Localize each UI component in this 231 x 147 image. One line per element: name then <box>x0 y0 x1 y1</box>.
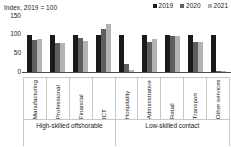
bar-2021[interactable] <box>37 39 42 72</box>
group-cell: Low-skilled contact <box>116 120 230 146</box>
legend-item-2021[interactable]: 2021 <box>208 3 228 10</box>
group-cell: High-skilled offshorable <box>23 120 116 146</box>
category-axis-labels: ManufacturingProfessionalFinancialICTHos… <box>23 77 230 120</box>
bar-2019[interactable] <box>188 35 193 72</box>
bar-2021[interactable] <box>198 42 203 72</box>
bar-group <box>92 16 115 72</box>
category-cell: Manufacturing <box>23 78 47 120</box>
category-cell: ICT <box>93 78 116 120</box>
bar-2020[interactable] <box>78 38 83 72</box>
group-label: Low-skilled contact <box>145 122 199 129</box>
bar-2020[interactable] <box>124 64 129 72</box>
legend-item-2020[interactable]: 2020 <box>180 3 200 10</box>
y-axis-tick-0: 0 <box>17 69 21 76</box>
bar-2021[interactable] <box>60 43 65 72</box>
bar-group <box>46 16 69 72</box>
bar-group <box>207 16 230 72</box>
category-label: Professional <box>55 85 61 119</box>
group-axis-labels: High-skilled offshorableLow-skilled cont… <box>23 119 230 146</box>
bar-2020[interactable] <box>147 42 152 72</box>
y-axis-tick-100: 100 <box>10 31 21 38</box>
y-axis-tick-150: 150 <box>10 13 21 20</box>
bar-2021[interactable] <box>152 39 157 72</box>
category-cell: Transport <box>184 78 207 120</box>
axis-baseline <box>22 72 231 73</box>
category-label: ICT <box>101 109 107 119</box>
category-cell: Hospitality <box>116 78 139 120</box>
bar-2019[interactable] <box>50 35 55 72</box>
bar-2019[interactable] <box>73 35 78 72</box>
bar-2019[interactable] <box>165 35 170 72</box>
category-label: Transport <box>192 93 198 119</box>
bar-group <box>69 16 92 72</box>
bar-group <box>138 16 161 72</box>
category-label: Retail <box>169 103 175 119</box>
legend-item-2019[interactable]: 2019 <box>153 3 173 10</box>
group-label: High-skilled offshorable <box>36 122 102 129</box>
bar-2021[interactable] <box>83 41 88 72</box>
legend-label-2021: 2021 <box>214 3 228 10</box>
category-cell: Professional <box>47 78 70 120</box>
y-axis: 150100500 <box>0 16 22 72</box>
bar-2020[interactable] <box>170 36 175 72</box>
legend-swatch-2021 <box>208 4 212 8</box>
category-label: Administrative <box>146 80 152 119</box>
bar-chart-figure: Index, 2019 = 100 2019 2020 2021 1501005… <box>0 0 231 147</box>
plot-area: 150100500 <box>0 16 231 76</box>
bar-group <box>23 16 46 72</box>
legend-swatch-2020 <box>180 4 184 8</box>
bar-2020[interactable] <box>55 43 60 72</box>
y-axis-tick-50: 50 <box>14 50 21 57</box>
chart-title: Index, 2019 = 100 <box>4 4 57 11</box>
bar-2020[interactable] <box>32 40 37 72</box>
category-cell: Retail <box>161 78 184 120</box>
category-label: Other services <box>215 79 221 119</box>
bar-2020[interactable] <box>193 42 198 72</box>
bar-2019[interactable] <box>211 35 216 72</box>
bars-region <box>23 16 230 72</box>
bar-2020[interactable] <box>101 29 106 72</box>
bar-group <box>161 16 184 72</box>
bar-2019[interactable] <box>119 35 124 72</box>
chart-legend: 2019 2020 2021 <box>153 3 228 10</box>
category-label: Hospitality <box>123 90 129 119</box>
category-cell: Administrative <box>138 78 161 120</box>
bar-group <box>184 16 207 72</box>
category-cell: Other services <box>207 78 230 120</box>
legend-label-2019: 2019 <box>159 3 173 10</box>
bar-group <box>115 16 138 72</box>
bar-2021[interactable] <box>175 36 180 72</box>
bar-2021[interactable] <box>106 24 111 72</box>
bar-2019[interactable] <box>27 35 32 72</box>
legend-label-2020: 2020 <box>186 3 200 10</box>
category-label: Financial <box>78 94 84 119</box>
bar-2019[interactable] <box>96 35 101 72</box>
category-label: Manufacturing <box>32 80 38 119</box>
category-cell: Financial <box>70 78 93 120</box>
legend-swatch-2019 <box>153 4 157 8</box>
bar-2019[interactable] <box>142 35 147 72</box>
